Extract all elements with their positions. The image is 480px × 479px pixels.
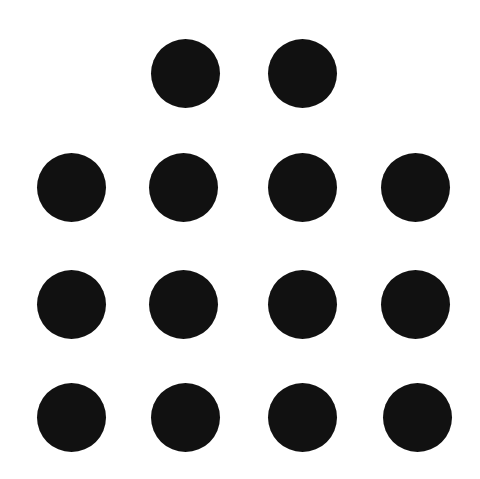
circle-dot [268,153,337,222]
circle-dot [37,383,106,452]
circle-dot [151,383,220,452]
circle-dot [268,39,337,108]
circle-dot [383,383,452,452]
circle-dot [37,270,106,339]
circle-dot [151,39,220,108]
circle-dot [149,153,218,222]
circle-dot [268,383,337,452]
circle-dot [381,153,450,222]
circle-dot [381,270,450,339]
circle-dot [268,270,337,339]
circle-dot [149,270,218,339]
circle-dot [37,153,106,222]
